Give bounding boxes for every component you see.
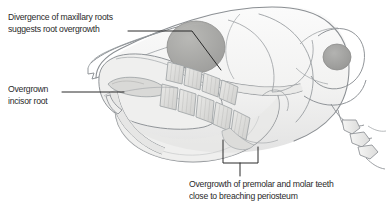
figure-rabbit-skull-dental-overgrowth: Divergence of maxillary roots suggests r… <box>0 0 388 213</box>
annotation-line: incisor root <box>8 96 48 108</box>
cervical-vertebrae <box>331 104 386 169</box>
annotation-premolar-molar-overgrowth: Overgrowth of premolar and molar teeth c… <box>189 179 333 202</box>
annotation-line: Overgrown <box>8 84 48 96</box>
annotation-line: Divergence of maxillary roots <box>8 12 113 24</box>
annotation-line: close to breaching periosteum <box>189 191 333 203</box>
annotation-line: suggests root overgrowth <box>8 24 113 36</box>
annotation-maxillary-root-divergence: Divergence of maxillary roots suggests r… <box>8 12 113 35</box>
annotation-overgrown-incisor-root: Overgrown incisor root <box>8 84 48 107</box>
annotation-line: Overgrowth of premolar and molar teeth <box>189 179 333 191</box>
